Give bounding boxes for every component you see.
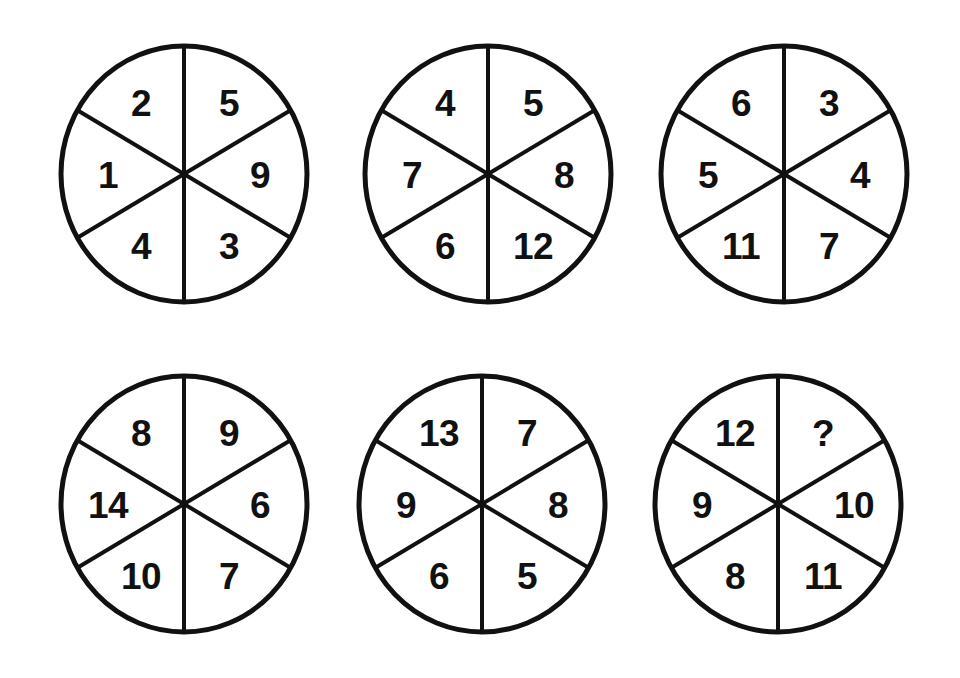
wheel-6-sector-bottom-right: 11 <box>804 558 842 595</box>
wheel-3-sector-top-right: 3 <box>819 85 839 122</box>
wheel-6[interactable]: 12 ? 10 11 8 9 <box>651 372 905 636</box>
wheel-5-sector-bottom-right: 5 <box>517 558 537 595</box>
wheel-2-sector-bottom-right: 12 <box>513 228 553 265</box>
wheel-1-sector-bottom-left: 4 <box>131 228 151 265</box>
wheel-3[interactable]: 6 3 4 7 11 5 <box>657 42 911 306</box>
wheel-4-sector-top-left: 8 <box>131 415 151 452</box>
wheel-5-sector-top-right: 7 <box>517 415 537 452</box>
wheel-5[interactable]: 13 7 8 5 6 9 <box>355 372 609 636</box>
wheel-5-sector-right: 8 <box>548 487 568 524</box>
wheel-1[interactable]: 2 5 9 3 4 1 <box>57 42 311 306</box>
wheel-4-sector-bottom-right: 7 <box>219 558 239 595</box>
wheel-5-sector-left: 9 <box>396 487 416 524</box>
wheel-3-sector-bottom-left: 11 <box>722 228 760 265</box>
wheel-2-sector-top-right: 5 <box>523 85 543 122</box>
wheel-2-graphic <box>361 42 615 306</box>
wheel-1-sector-top-right: 5 <box>219 85 239 122</box>
wheel-1-sector-top-left: 2 <box>131 85 151 122</box>
wheel-1-graphic <box>57 42 311 306</box>
puzzle-sheet: 2 5 9 3 4 1 4 5 8 12 6 7 6 3 4 7 11 <box>0 0 960 678</box>
wheel-3-graphic <box>657 42 911 306</box>
wheel-6-sector-unknown[interactable]: ? <box>812 415 834 452</box>
wheel-3-sector-bottom-right: 7 <box>819 228 839 265</box>
wheel-2-sector-top-left: 4 <box>435 85 455 122</box>
wheel-4-sector-left: 14 <box>88 487 128 524</box>
wheel-3-sector-left: 5 <box>698 157 718 194</box>
wheel-1-sector-left: 1 <box>98 157 118 194</box>
wheel-1-sector-right: 9 <box>250 157 270 194</box>
wheel-4-sector-bottom-left: 10 <box>121 558 161 595</box>
wheel-2[interactable]: 4 5 8 12 6 7 <box>361 42 615 306</box>
wheel-3-sector-top-left: 6 <box>731 85 751 122</box>
wheel-2-sector-bottom-left: 6 <box>435 228 455 265</box>
wheel-2-sector-right: 8 <box>554 157 574 194</box>
wheel-5-sector-top-left: 13 <box>419 415 459 452</box>
wheel-6-sector-right: 10 <box>834 487 874 524</box>
wheel-5-graphic <box>355 372 609 636</box>
wheel-5-sector-bottom-left: 6 <box>429 558 449 595</box>
wheel-1-sector-bottom-right: 3 <box>219 228 239 265</box>
wheel-3-sector-right: 4 <box>850 157 870 194</box>
wheel-4-sector-right: 6 <box>250 487 270 524</box>
wheel-4[interactable]: 8 9 6 7 10 14 <box>57 372 311 636</box>
wheel-4-sector-top-right: 9 <box>219 415 239 452</box>
wheel-6-sector-top-left: 12 <box>715 415 755 452</box>
wheel-2-sector-left: 7 <box>402 157 422 194</box>
wheel-6-sector-bottom-left: 8 <box>725 558 745 595</box>
wheel-6-sector-left: 9 <box>692 487 712 524</box>
